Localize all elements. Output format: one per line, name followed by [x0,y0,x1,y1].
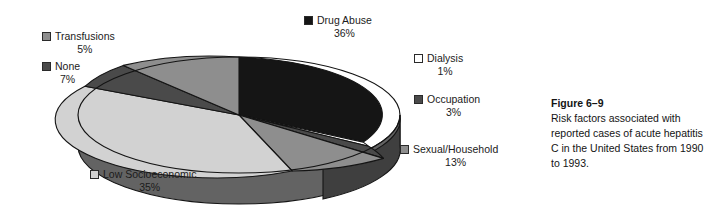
swatch-drug-abuse-icon [304,16,313,25]
swatch-none-icon [42,62,51,71]
pie-label-sexual-household: Sexual/Household 13% [400,143,498,170]
pie-label-sexual-household-name: Sexual/Household [413,143,498,156]
pie-label-none-value: 7% [42,73,80,86]
swatch-transfusions-icon [42,32,51,41]
pie-label-dialysis-value: 1% [414,65,463,78]
swatch-sexual-household-icon [400,145,409,154]
pie-label-dialysis: Dialysis 1% [414,52,463,79]
pie-label-sexual-household-value: 13% [400,156,498,169]
pie-label-drug-abuse-value: 36% [304,27,372,40]
pie-label-transfusions-name: Transfusions [55,30,115,43]
pie-label-occupation-value: 3% [414,106,480,119]
swatch-low-socioeconomic-icon [90,170,99,179]
pie-label-dialysis-name: Dialysis [427,52,463,65]
figure-6-9: Drug Abuse 36% Transfusions 5% None 7% D… [0,0,715,208]
pie-label-drug-abuse: Drug Abuse 36% [304,14,372,41]
pie-label-low-socioeconomic-value: 35% [90,181,196,194]
pie-label-none-name: None [55,60,80,73]
figure-caption: Figure 6–9 Risk factors associated with … [551,96,711,171]
pie-label-occupation: Occupation 3% [414,93,480,120]
figure-caption-body: Risk factors associated with reported ca… [551,111,711,171]
pie-label-occupation-name: Occupation [427,93,480,106]
pie-label-drug-abuse-name: Drug Abuse [317,14,372,27]
pie-label-transfusions: Transfusions 5% [42,30,115,57]
pie-top-face [55,56,383,178]
pie-label-low-socioeconomic: Low Socioeconomic 35% [90,168,196,195]
pie-label-transfusions-value: 5% [42,43,115,56]
pie-label-low-socioeconomic-name: Low Socioeconomic [103,168,196,181]
swatch-dialysis-icon [414,54,423,63]
pie-label-none: None 7% [42,60,80,87]
figure-caption-title: Figure 6–9 [551,96,711,111]
swatch-occupation-icon [414,95,423,104]
